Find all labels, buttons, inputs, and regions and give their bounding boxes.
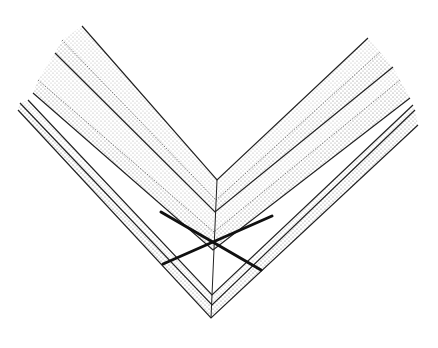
diagram-canvas [0,0,438,348]
chevron-diagram [0,0,438,348]
stippled-bands [18,26,418,318]
